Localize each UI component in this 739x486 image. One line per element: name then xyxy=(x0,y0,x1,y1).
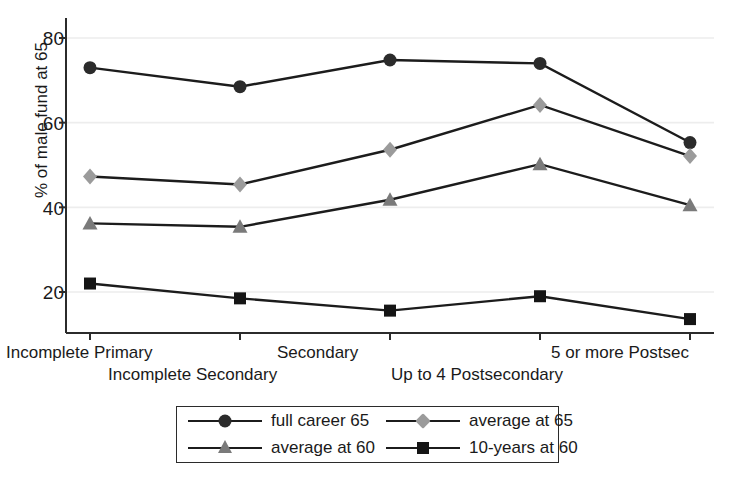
data-point-marker xyxy=(384,54,397,67)
line-chart: % of male fund at 65 80 60 40 20 Incompl… xyxy=(0,0,739,486)
data-point-marker xyxy=(233,176,247,192)
legend-key-diamond-icon xyxy=(386,413,460,429)
legend-label: 10-years at 60 xyxy=(469,438,578,458)
legend-label: full career 65 xyxy=(271,411,369,431)
data-point-marker xyxy=(684,313,696,325)
legend-key-triangle-icon xyxy=(188,440,262,456)
data-point-marker xyxy=(534,57,547,70)
data-point-marker xyxy=(534,290,546,302)
legend-key-square-icon xyxy=(386,440,460,456)
legend-label: average at 65 xyxy=(469,411,573,431)
legend-label: average at 60 xyxy=(271,438,375,458)
data-point-marker xyxy=(384,305,396,317)
legend-item-10-years-at-60[interactable]: 10-years at 60 xyxy=(375,438,578,458)
data-point-marker xyxy=(533,157,548,171)
data-point-marker xyxy=(84,61,97,74)
legend: full career 65 average at 65 average at … xyxy=(176,406,559,463)
series-line xyxy=(90,60,690,143)
plot-area xyxy=(0,0,739,360)
data-point-marker xyxy=(234,292,246,304)
x-tick-label-incomplete-primary: Incomplete Primary xyxy=(6,344,152,362)
data-point-marker xyxy=(683,148,697,164)
legend-item-full-career-65[interactable]: full career 65 xyxy=(177,411,375,431)
x-tick-label-incomplete-secondary: Incomplete Secondary xyxy=(108,366,277,384)
data-point-marker xyxy=(84,278,96,290)
data-point-marker xyxy=(533,97,547,113)
x-tick-label-5-or-more-postsec: 5 or more Postsec xyxy=(551,344,689,362)
data-point-marker xyxy=(234,80,247,93)
legend-item-average-at-60[interactable]: average at 60 xyxy=(177,438,375,458)
data-point-marker xyxy=(83,168,97,184)
data-point-marker xyxy=(684,136,697,149)
x-tick-label-secondary: Secondary xyxy=(277,344,358,362)
legend-key-circle-icon xyxy=(188,413,262,429)
legend-item-average-at-65[interactable]: average at 65 xyxy=(375,411,578,431)
data-point-marker xyxy=(383,142,397,158)
x-tick-label-up-to-4-postsecondary: Up to 4 Postsecondary xyxy=(391,366,563,384)
